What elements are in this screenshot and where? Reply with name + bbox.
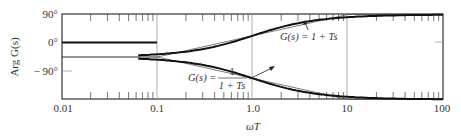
annotation-lower-numerator: 1	[229, 66, 234, 77]
y-tick-label-90: 90°	[43, 8, 58, 20]
x-axis-label: ωT	[246, 120, 261, 132]
x-tick-label-100: 100	[434, 102, 451, 114]
annotation-lower-denominator: 1 + Ts	[219, 80, 246, 91]
annotation-upper: G(s) = 1 + Ts	[280, 31, 338, 43]
x-tick-label-0.1: 0.1	[150, 102, 164, 114]
annotation-lower-prefix: G(s) =	[188, 72, 216, 84]
arrowhead-icon	[269, 66, 275, 71]
bode-phase-chart: 90° 0° − 90° Arg G(s) 0.01 0.1 1.0 10 10…	[0, 0, 461, 137]
plot-frame	[62, 14, 443, 99]
x-tick-label-10: 10	[342, 102, 354, 114]
y-axis-label: Arg G(s)	[8, 37, 21, 77]
lower-phase-curve	[138, 59, 443, 99]
x-tick-label-0.01: 0.01	[53, 102, 72, 114]
decade-gridlines	[157, 14, 347, 99]
minor-ticks	[91, 14, 439, 99]
annotation-lower-arrow	[249, 68, 272, 79]
x-tick-label-1.0: 1.0	[246, 102, 260, 114]
y-tick-label-0: 0°	[48, 36, 58, 48]
y-tick-label-minus90: − 90°	[34, 65, 58, 77]
